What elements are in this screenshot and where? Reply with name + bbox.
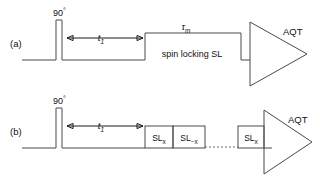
- panel-a: (a) 90° t1 τm spin locking SL AQT: [10, 7, 307, 86]
- panel-a-excitation-pulse: [56, 20, 62, 60]
- panel-b-sl-label-3: SLx: [244, 133, 258, 145]
- panel-b-sl-label-2: SL−x: [180, 133, 198, 145]
- panel-a-aqt-label: AQT: [283, 26, 303, 37]
- panel-a-excitation-pulse-label: 90°: [53, 7, 66, 18]
- panel-b-tag: (b): [10, 126, 22, 137]
- panel-a-t1-label: t1: [98, 32, 105, 45]
- panel-b-t1-label: t1: [98, 120, 105, 133]
- pulse-sequence-svg: (a) 90° t1 τm spin locking SL AQT: [0, 0, 320, 177]
- figure-canvas: (a) 90° t1 τm spin locking SL AQT: [0, 0, 320, 177]
- panel-b: (b) 90° t1 SLx SL−x SLx AQT: [10, 95, 312, 174]
- panel-a-tag: (a): [10, 38, 22, 49]
- panel-b-aqt-label: AQT: [288, 114, 308, 125]
- panel-b-excitation-pulse: [56, 108, 62, 148]
- panel-b-sl-label-1: SLx: [152, 133, 166, 145]
- panel-b-t1-arrow: [67, 123, 143, 128]
- panel-a-spinlock-label: spin locking SL: [162, 49, 223, 59]
- panel-b-excitation-pulse-label: 90°: [53, 95, 66, 106]
- panel-a-tau-m-label: τm: [182, 21, 192, 34]
- panel-a-t1-arrow: [67, 35, 143, 40]
